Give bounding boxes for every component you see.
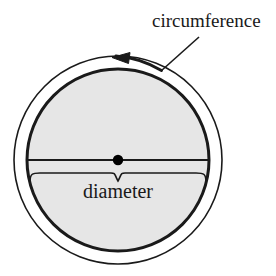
center-point-dot [113,155,123,165]
circumference-label: circumference [152,10,261,31]
circumference-leader-line [161,37,199,71]
circle-diagram-figure: circumference diameter [0,0,276,276]
diagram-canvas: circumference diameter [0,0,276,276]
diameter-label: diameter [83,180,153,202]
